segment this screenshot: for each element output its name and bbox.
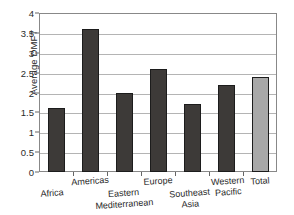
y-tick-label: 2.5 xyxy=(21,67,34,78)
x-tick-label: Africa xyxy=(32,187,73,200)
x-tick-mark xyxy=(209,172,210,176)
x-tick-mark xyxy=(141,172,142,176)
x-tick-label: Eastern Mediterranean xyxy=(83,185,164,212)
x-tick-label: Americas xyxy=(64,174,117,188)
bar xyxy=(116,93,133,173)
bar xyxy=(48,108,65,172)
y-axis-ticks: 00.511.522.533.54 xyxy=(0,13,39,172)
bar-chart: Average DMFT 00.511.522.533.54 AfricaAme… xyxy=(0,0,294,215)
y-tick-label: 2 xyxy=(29,87,34,98)
bars-layer xyxy=(39,13,277,172)
bar xyxy=(150,69,167,172)
y-tick-label: 0.5 xyxy=(21,147,34,158)
bar xyxy=(184,104,201,172)
y-tick-label: 4 xyxy=(29,8,34,19)
y-tick-label: 3 xyxy=(29,47,34,58)
x-tick-mark xyxy=(243,172,244,176)
bar xyxy=(252,77,269,172)
x-tick-mark xyxy=(175,172,176,176)
x-tick-label: Total xyxy=(243,175,278,188)
y-tick-label: 1.5 xyxy=(21,107,34,118)
x-tick-mark xyxy=(107,172,108,176)
x-axis-labels: AfricaAmericasEastern MediterraneanEurop… xyxy=(0,172,294,215)
x-tick-label: Europe xyxy=(136,174,181,188)
y-tick-label: 3.5 xyxy=(21,27,34,38)
y-tick-label: 1 xyxy=(29,127,34,138)
x-tick-mark xyxy=(73,172,74,176)
bar xyxy=(218,85,235,172)
bar xyxy=(82,29,99,172)
